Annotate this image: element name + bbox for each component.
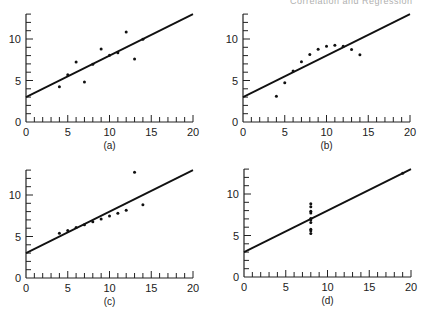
scatter-panel-a: 051015200510(a)	[9, 14, 199, 151]
data-point	[350, 48, 353, 51]
data-point	[309, 202, 312, 205]
x-tick-label: 20	[404, 126, 416, 138]
regression-line	[243, 14, 410, 97]
data-point	[309, 218, 312, 221]
x-tick-label: 0	[241, 281, 247, 293]
regression-line	[244, 169, 411, 252]
data-point	[83, 223, 86, 226]
x-tick-label: 10	[103, 126, 115, 138]
anscombe-quartet-figure: 051015200510(a)051015200510(b)0510152005…	[0, 0, 424, 312]
y-tick-label: 5	[15, 75, 21, 87]
data-point	[66, 229, 69, 232]
data-point	[91, 63, 94, 66]
data-point	[100, 217, 103, 220]
data-point	[333, 44, 336, 47]
x-tick-label: 20	[187, 126, 199, 138]
x-tick-label: 20	[187, 282, 199, 294]
data-point	[141, 38, 144, 41]
data-point	[116, 51, 119, 54]
data-point	[58, 232, 61, 235]
x-tick-label: 15	[363, 281, 375, 293]
x-tick-label: 20	[405, 281, 417, 293]
y-tick-label: 10	[9, 33, 21, 45]
y-tick-label: 0	[233, 271, 239, 283]
x-tick-label: 5	[65, 126, 71, 138]
y-tick-label: 10	[9, 189, 21, 201]
data-point	[283, 81, 286, 84]
data-point	[308, 53, 311, 56]
scatter-panel-b: 051015200510(b)	[226, 14, 416, 151]
data-point	[141, 203, 144, 206]
data-point	[133, 171, 136, 174]
data-point	[125, 31, 128, 34]
y-tick-label: 0	[15, 272, 21, 284]
y-tick-label: 5	[233, 230, 239, 242]
x-tick-label: 0	[23, 282, 29, 294]
panel-label: (d)	[321, 295, 333, 306]
y-tick-label: 0	[232, 116, 238, 128]
data-point	[125, 209, 128, 212]
data-point	[100, 47, 103, 50]
data-point	[309, 210, 312, 213]
panel-label: (b)	[320, 140, 332, 151]
data-point	[401, 172, 404, 175]
x-tick-label: 5	[65, 282, 71, 294]
scatter-panel-c: 051015200510(c)	[9, 170, 199, 307]
x-tick-label: 5	[282, 126, 288, 138]
data-point	[309, 232, 312, 235]
x-tick-label: 10	[321, 281, 333, 293]
data-point	[309, 221, 312, 224]
data-point	[133, 58, 136, 61]
data-point	[300, 60, 303, 63]
x-tick-label: 0	[240, 126, 246, 138]
data-point	[358, 53, 361, 56]
data-point	[108, 215, 111, 218]
data-point	[58, 85, 61, 88]
data-point	[317, 48, 320, 51]
x-tick-label: 10	[103, 282, 115, 294]
x-tick-label: 15	[362, 126, 374, 138]
panel-label: (a)	[103, 140, 115, 151]
scatter-panel-d: 051015200510(d)	[227, 169, 417, 306]
data-point	[275, 95, 278, 98]
data-point	[75, 226, 78, 229]
data-point	[309, 205, 312, 208]
x-tick-label: 15	[145, 282, 157, 294]
data-point	[342, 45, 345, 48]
y-tick-label: 10	[226, 33, 238, 45]
data-point	[75, 60, 78, 63]
y-tick-label: 0	[15, 116, 21, 128]
x-tick-label: 5	[283, 281, 289, 293]
data-point	[325, 45, 328, 48]
y-tick-label: 5	[232, 75, 238, 87]
data-point	[108, 54, 111, 57]
data-point	[309, 229, 312, 232]
data-point	[83, 80, 86, 83]
y-tick-label: 5	[15, 231, 21, 243]
y-tick-label: 10	[227, 188, 239, 200]
x-tick-label: 0	[23, 126, 29, 138]
regression-line	[26, 170, 193, 253]
data-point	[116, 212, 119, 215]
data-point	[292, 70, 295, 73]
x-tick-label: 15	[145, 126, 157, 138]
x-tick-label: 10	[320, 126, 332, 138]
panel-label: (c)	[104, 296, 116, 307]
data-point	[66, 73, 69, 76]
data-point	[91, 220, 94, 223]
